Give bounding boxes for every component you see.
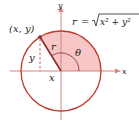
formula-radicand: x² + y² xyxy=(100,17,131,27)
formula-lhs: r xyxy=(72,16,78,27)
x-axis-label: x xyxy=(122,67,127,76)
formula: r = x² + y² xyxy=(72,14,139,27)
y-axis-label: y xyxy=(57,1,63,10)
formula-equals: = xyxy=(81,16,89,27)
point-label: (x, y) xyxy=(9,23,35,34)
x-leg-label: x xyxy=(49,72,55,83)
polar-diagram: (x, y) r θ y x x y r = x² + y² xyxy=(0,0,139,125)
y-leg-label: y xyxy=(28,52,35,63)
x-axis-arrow-icon xyxy=(115,69,121,74)
point-marker xyxy=(38,35,42,39)
angle-label: θ xyxy=(75,47,81,58)
